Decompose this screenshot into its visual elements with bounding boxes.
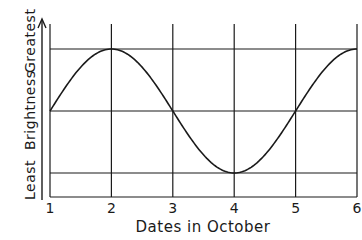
- x-tick-label: 3: [168, 200, 177, 216]
- brightness-chart: 123456 Dates in October: [0, 0, 362, 240]
- x-tick-labels: 123456: [46, 200, 362, 216]
- x-axis-label: Dates in October: [136, 218, 271, 236]
- y-axis-label: Brightness: [22, 70, 38, 150]
- x-tick-label: 1: [46, 200, 55, 216]
- y-axis-arrow: [38, 19, 46, 200]
- chart-grid: [50, 24, 357, 197]
- x-tick-label: 2: [107, 200, 116, 216]
- x-tick-label: 4: [230, 200, 239, 216]
- x-tick-label: 5: [291, 200, 300, 216]
- y-label-least: Least: [22, 160, 38, 200]
- y-label-greatest: Greatest: [22, 9, 38, 73]
- x-tick-label: 6: [353, 200, 362, 216]
